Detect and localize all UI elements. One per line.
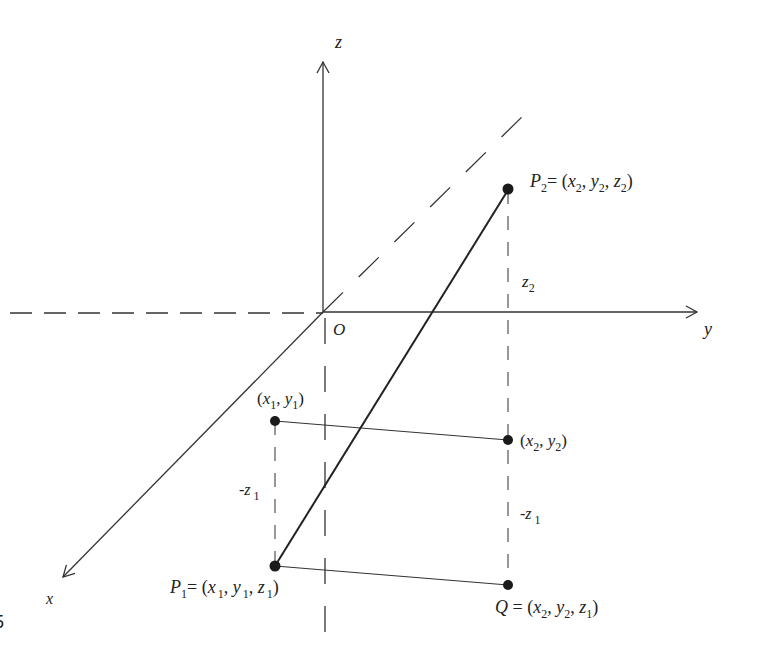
x-axis-label: x xyxy=(45,590,53,607)
xy2-label: (x2, y2) xyxy=(520,431,567,454)
3d-distance-diagram: z y x O P2= (x2, y2, z2) z2 (x1, y1) (x2… xyxy=(0,0,759,653)
negative-x-axis-dashed xyxy=(323,113,526,312)
p1-p2-segment xyxy=(275,190,508,566)
point-xy2 xyxy=(503,435,513,445)
point-q xyxy=(503,580,513,590)
point-xy1 xyxy=(270,416,280,426)
xy1-label: (x1, y1) xyxy=(257,389,304,412)
neg-z1-right-label: -z1 xyxy=(520,505,541,527)
margin-page-number: 5 xyxy=(0,612,4,632)
point-p1 xyxy=(270,561,281,572)
xy-projection-segment xyxy=(275,421,508,440)
x-axis xyxy=(63,312,323,577)
p1-label: P1= (x1, y1, z1) xyxy=(169,577,279,601)
p2-label: P2= (x2, y2, z2) xyxy=(529,171,633,195)
y-axis-label: y xyxy=(702,319,712,339)
neg-z1-left-label: -z1 xyxy=(239,481,260,503)
point-p2 xyxy=(503,184,514,195)
z2-label: z2 xyxy=(521,272,535,295)
origin-label: O xyxy=(333,320,345,339)
q-label: Q = (x2, y2, z1) xyxy=(495,597,598,621)
z-axis-label: z xyxy=(334,32,342,52)
p1-q-segment xyxy=(275,566,508,585)
